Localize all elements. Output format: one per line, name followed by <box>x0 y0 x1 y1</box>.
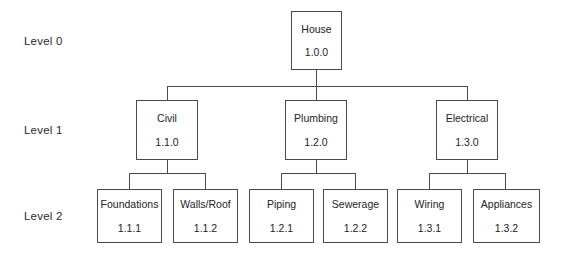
node-house[interactable]: House 1.0.0 <box>291 11 342 70</box>
node-walls-roof-code: 1.1.2 <box>194 223 217 234</box>
connector-civil-stem <box>167 160 168 173</box>
node-piping[interactable]: Piping 1.2.1 <box>249 189 314 243</box>
level-label-1: Level 1 <box>24 125 62 137</box>
node-electrical[interactable]: Electrical 1.3.0 <box>436 100 498 160</box>
node-plumbing-code: 1.2.0 <box>304 137 327 148</box>
node-appliances-code: 1.3.2 <box>495 223 518 234</box>
connector-drop-civil <box>167 86 168 100</box>
connector-drop-walls-roof <box>205 173 206 189</box>
node-house-code: 1.0.0 <box>305 47 328 58</box>
node-civil[interactable]: Civil 1.1.0 <box>136 100 198 160</box>
node-sewerage[interactable]: Sewerage 1.2.2 <box>323 189 388 243</box>
connector-drop-piping <box>281 173 282 189</box>
node-walls-roof-title: Walls/Roof <box>180 199 230 210</box>
connector-civil-bus <box>129 173 205 174</box>
node-house-title: House <box>301 24 331 35</box>
connector-drop-plumbing <box>316 86 317 100</box>
node-walls-roof[interactable]: Walls/Roof 1.1.2 <box>173 189 238 243</box>
connector-plumbing-stem <box>316 160 317 173</box>
connector-drop-appliances <box>505 173 506 189</box>
node-electrical-code: 1.3.0 <box>455 137 478 148</box>
connector-electrical-bus <box>429 173 505 174</box>
node-wiring-code: 1.3.1 <box>418 223 441 234</box>
node-civil-title: Civil <box>157 113 177 124</box>
connector-plumbing-bus <box>281 173 355 174</box>
node-plumbing[interactable]: Plumbing 1.2.0 <box>285 100 347 160</box>
connector-electrical-stem <box>467 160 468 173</box>
node-plumbing-title: Plumbing <box>294 113 338 124</box>
connector-drop-foundations <box>129 173 130 189</box>
connector-drop-sewerage <box>355 173 356 189</box>
node-foundations-code: 1.1.1 <box>118 223 141 234</box>
node-electrical-title: Electrical <box>446 113 489 124</box>
node-civil-code: 1.1.0 <box>155 137 178 148</box>
connector-drop-electrical <box>467 86 468 100</box>
connector-level1-bus <box>167 86 467 87</box>
level-label-0: Level 0 <box>24 36 62 48</box>
connector-drop-wiring <box>429 173 430 189</box>
wbs-diagram: Level 0 Level 1 Level 2 House 1.0.0 Civi… <box>0 0 565 266</box>
node-appliances[interactable]: Appliances 1.3.2 <box>473 189 540 243</box>
node-sewerage-code: 1.2.2 <box>344 223 367 234</box>
level-label-2: Level 2 <box>24 211 62 223</box>
connector-root-stem <box>316 70 317 86</box>
node-foundations[interactable]: Foundations 1.1.1 <box>97 189 162 243</box>
node-wiring[interactable]: Wiring 1.3.1 <box>397 189 462 243</box>
node-piping-code: 1.2.1 <box>270 223 293 234</box>
node-wiring-title: Wiring <box>415 199 445 210</box>
node-sewerage-title: Sewerage <box>332 199 379 210</box>
node-appliances-title: Appliances <box>481 199 532 210</box>
node-foundations-title: Foundations <box>101 199 159 210</box>
node-piping-title: Piping <box>267 199 296 210</box>
